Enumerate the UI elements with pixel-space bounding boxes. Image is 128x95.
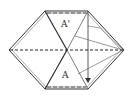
diagonal-upper-left	[45, 11, 67, 50]
diagonal-lower-right	[67, 50, 88, 89]
label-a-prime: A'	[60, 19, 70, 29]
fold-down-arrow	[85, 12, 91, 83]
label-a: A	[61, 70, 69, 80]
hexagon-fold-diagram: A' A	[0, 0, 128, 95]
fold-line-lower-1	[78, 50, 123, 74]
fold-line-upper-2	[88, 26, 100, 28]
diagonal-upper-right	[67, 11, 88, 50]
